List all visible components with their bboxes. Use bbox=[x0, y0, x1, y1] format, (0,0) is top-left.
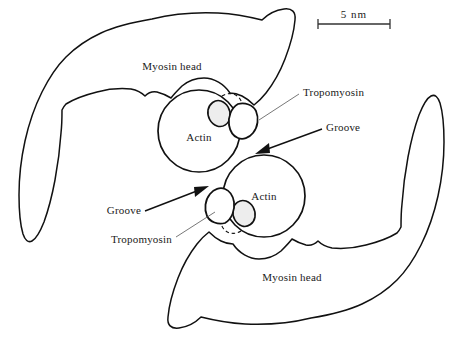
diagram-svg bbox=[0, 0, 466, 337]
scale-bar bbox=[318, 19, 390, 29]
tropomyosin-upper bbox=[229, 103, 258, 138]
groove-arrow-right bbox=[255, 129, 322, 154]
groove-arrow-left-line bbox=[145, 189, 202, 211]
label-tropomyosin-left: Tropomyosin bbox=[111, 234, 172, 245]
figure-container: 5 nm Myosin head Myosin head Actin Actin… bbox=[0, 0, 466, 337]
groove-arrow-left bbox=[145, 186, 209, 211]
groove-arrow-right-line bbox=[262, 129, 322, 151]
tropomyosin-small-lower bbox=[233, 200, 255, 226]
label-actin-bottom: Actin bbox=[251, 191, 276, 202]
tropomyosin-leader-right bbox=[259, 94, 299, 120]
tropomyosin-lower bbox=[205, 188, 234, 223]
label-actin-top: Actin bbox=[186, 132, 211, 143]
groove-arrow-right-head bbox=[255, 143, 270, 154]
label-groove-right: Groove bbox=[326, 122, 360, 133]
label-myosin-head-top: Myosin head bbox=[142, 61, 201, 72]
tropomyosin-small-upper bbox=[208, 101, 230, 127]
label-tropomyosin-right: Tropomyosin bbox=[303, 87, 364, 98]
label-groove-left: Groove bbox=[107, 205, 141, 216]
scale-bar-label: 5 nm bbox=[341, 8, 367, 20]
groove-arrow-left-head bbox=[194, 186, 209, 197]
label-myosin-head-bottom: Myosin head bbox=[262, 272, 321, 283]
